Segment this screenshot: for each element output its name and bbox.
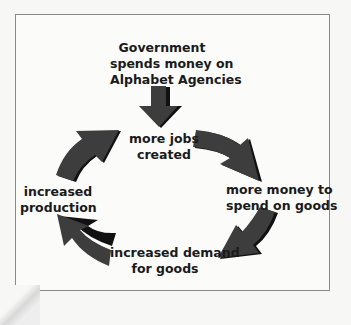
arrow-down-icon bbox=[139, 86, 182, 128]
node-money-line-2: spend on goods bbox=[226, 198, 326, 214]
node-demand-line-1: increased demand bbox=[110, 245, 220, 261]
node-production-line-1: increased bbox=[20, 184, 96, 200]
node-demand-line-2: for goods bbox=[110, 261, 220, 277]
start-line-2: spends money on bbox=[110, 56, 214, 72]
arrow-curved-up-left-icon bbox=[57, 214, 116, 266]
arrow-curved-up-right-icon bbox=[56, 130, 121, 182]
node-money: more money to spend on goods bbox=[226, 182, 326, 214]
node-production-line-2: production bbox=[20, 200, 96, 216]
start-node-label: Government spends money on Alphabet Agen… bbox=[110, 40, 214, 88]
node-jobs-line-2: created bbox=[120, 147, 208, 163]
node-jobs-line-1: more jobs bbox=[120, 131, 208, 147]
start-line-3: Alphabet Agencies bbox=[110, 72, 214, 88]
node-money-line-1: more money to bbox=[226, 182, 326, 198]
start-line-1: Government bbox=[110, 40, 214, 56]
node-demand: increased demand for goods bbox=[110, 245, 220, 277]
node-jobs: more jobs created bbox=[120, 131, 208, 163]
node-production: increased production bbox=[20, 184, 96, 216]
